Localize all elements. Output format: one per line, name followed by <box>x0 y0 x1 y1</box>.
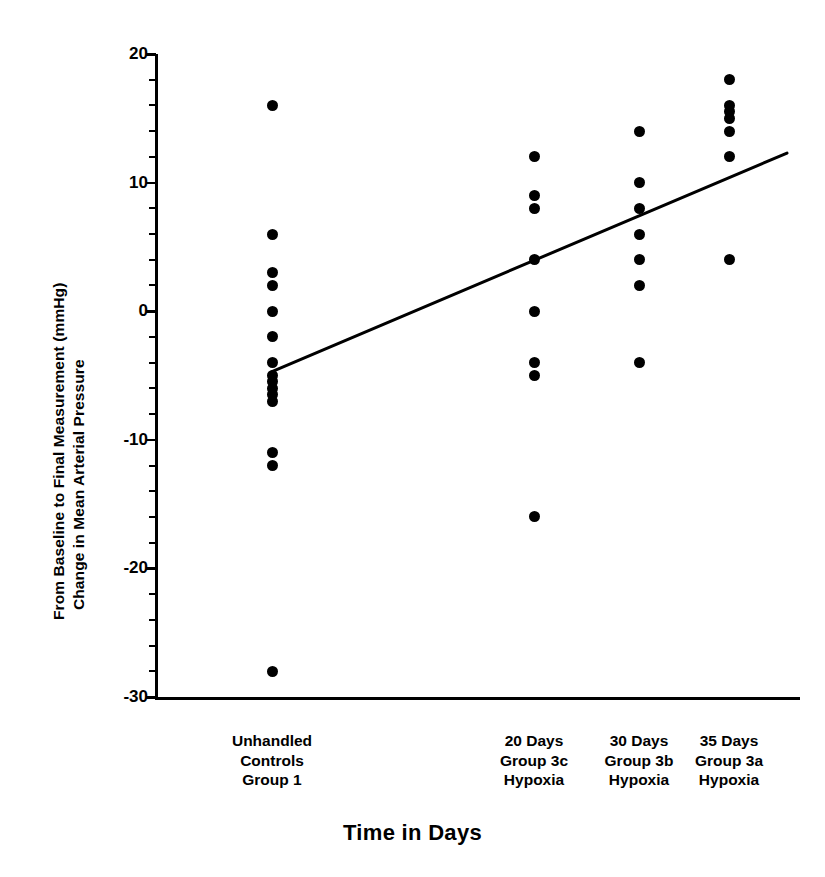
data-point <box>724 254 735 265</box>
y-tick-label: 0 <box>86 302 148 319</box>
chart-figure: Change in Mean Arterial Pressure From Ba… <box>0 0 825 877</box>
data-point <box>267 447 278 458</box>
y-axis-tick-labels: 20100-10-20-30 <box>86 0 148 877</box>
data-point <box>529 190 540 201</box>
data-point <box>267 229 278 240</box>
data-point <box>267 331 278 342</box>
x-group-label-line: 35 Days <box>659 731 799 751</box>
data-point <box>267 396 278 407</box>
data-point <box>267 357 278 368</box>
data-point <box>529 306 540 317</box>
data-point <box>267 100 278 111</box>
data-point <box>634 357 645 368</box>
data-point <box>529 151 540 162</box>
data-point <box>724 126 735 137</box>
data-point <box>634 254 645 265</box>
data-point <box>529 203 540 214</box>
data-point <box>267 460 278 471</box>
x-group-label-line: Group 1 <box>202 770 342 790</box>
data-point <box>267 666 278 677</box>
y-tick-label: -10 <box>86 431 148 448</box>
data-point <box>267 267 278 278</box>
data-point <box>634 280 645 291</box>
data-point <box>529 370 540 381</box>
data-point <box>529 511 540 522</box>
x-axis-label: Time in Days <box>0 820 825 846</box>
x-group-label: 35 DaysGroup 3aHypoxia <box>659 731 799 790</box>
data-point <box>267 306 278 317</box>
x-group-label-line: Group 3a <box>659 751 799 771</box>
x-group-label: UnhandledControlsGroup 1 <box>202 731 342 790</box>
data-point <box>724 151 735 162</box>
data-point <box>634 126 645 137</box>
y-tick-label: -20 <box>86 559 148 576</box>
y-tick-label: 10 <box>86 174 148 191</box>
data-point <box>634 177 645 188</box>
data-point <box>634 203 645 214</box>
x-group-label-line: Controls <box>202 751 342 771</box>
data-point <box>529 357 540 368</box>
data-point <box>529 254 540 265</box>
x-group-label-line: Unhandled <box>202 731 342 751</box>
data-point <box>267 280 278 291</box>
data-point <box>634 229 645 240</box>
y-tick-label: 20 <box>86 45 148 62</box>
x-group-label-line: Hypoxia <box>659 770 799 790</box>
plot-area <box>155 40 805 710</box>
y-axis-label-line2: From Baseline to Final Measurement (mmHg… <box>50 283 68 620</box>
y-axis-label: Change in Mean Arterial Pressure From Ba… <box>14 0 94 730</box>
y-tick-label: -30 <box>86 688 148 705</box>
data-point <box>724 113 735 124</box>
data-point <box>724 74 735 85</box>
